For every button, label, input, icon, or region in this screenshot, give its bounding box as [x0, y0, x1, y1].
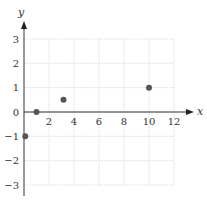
x-tick-label: 8	[121, 116, 127, 127]
data-point	[34, 109, 40, 115]
y-tick-label: 3	[13, 34, 19, 45]
y-axis-label: y	[17, 6, 25, 19]
x-axis-label: x	[197, 105, 204, 118]
y-tick-label: −2	[4, 155, 19, 166]
data-point	[61, 97, 67, 103]
x-tick-label: 12	[168, 116, 181, 127]
axes	[21, 21, 194, 196]
x-tick-label: 2	[46, 116, 52, 127]
x-tick-label: 10	[143, 116, 156, 127]
y-tick-label: 2	[13, 58, 19, 69]
y-tick-label: 1	[13, 82, 19, 93]
x-tick-label: 4	[71, 116, 77, 127]
x-axis-arrow	[186, 109, 194, 115]
x-tick-label: 6	[96, 116, 102, 127]
chart: 246810123210−1−2−3 x y	[0, 0, 207, 203]
y-tick-label: −1	[4, 131, 19, 142]
data-point	[146, 85, 152, 91]
y-axis-arrow	[21, 21, 27, 29]
data-point	[22, 133, 28, 139]
y-tick-label: 0	[13, 107, 19, 118]
y-tick-label: −3	[4, 180, 19, 191]
